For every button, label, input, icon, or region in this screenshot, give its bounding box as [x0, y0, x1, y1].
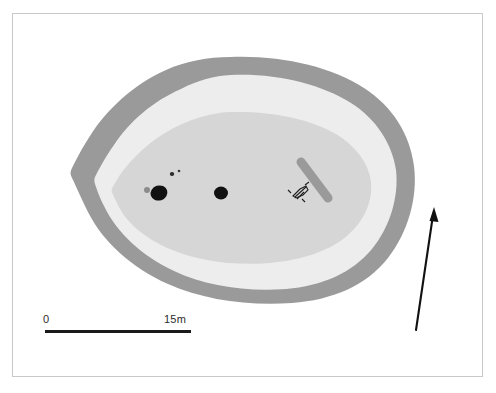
pit-large-east — [214, 187, 228, 200]
site-plan-drawing — [0, 0, 496, 393]
scale-bar-rule — [45, 330, 191, 333]
stakehole-speck-a — [170, 172, 174, 176]
scale-bar-start-label: 0 — [43, 313, 49, 325]
stakehole-speck-b — [178, 170, 181, 172]
north-arrow — [416, 207, 439, 330]
posthole-small-west — [144, 187, 150, 193]
figure-canvas: 0 15m — [0, 0, 496, 393]
scale-bar-end-label: 15m — [164, 313, 186, 325]
